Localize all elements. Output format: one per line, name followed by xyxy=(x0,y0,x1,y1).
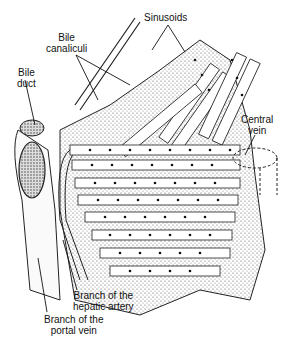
label-bile-canaliculi-line2: canaliculi xyxy=(46,43,87,54)
label-portal-vein-line2: portal vein xyxy=(44,325,103,336)
label-hepatic-artery-line1: Branch of the xyxy=(73,290,134,301)
portal-vein-opening xyxy=(19,142,45,198)
label-central-vein: Central vein xyxy=(241,114,273,136)
bile-duct-vessel xyxy=(20,120,44,136)
label-hepatic-artery: Branch of the hepatic artery xyxy=(73,290,134,312)
label-portal-vein-line1: Branch of the xyxy=(44,314,103,325)
label-central-vein-line1: Central xyxy=(241,114,273,125)
label-bile-canaliculi-line1: Bile xyxy=(46,32,87,43)
label-bile-canaliculi: Bile canaliculi xyxy=(46,32,87,54)
label-bile-duct-line2: duct xyxy=(17,78,36,89)
label-bile-duct-line1: Bile xyxy=(17,67,36,78)
label-sinusoids: Sinusoids xyxy=(144,12,187,23)
liver-lobule-illustration xyxy=(0,0,287,349)
label-portal-vein: Branch of the portal vein xyxy=(44,314,103,336)
label-bile-duct: Bile duct xyxy=(17,67,36,89)
label-central-vein-line2: vein xyxy=(241,125,273,136)
label-hepatic-artery-line2: hepatic artery xyxy=(73,301,134,312)
